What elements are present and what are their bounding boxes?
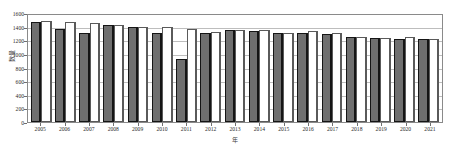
x-axis-tick-label: 2011 bbox=[174, 126, 198, 133]
x-axis-tick-label: 2014 bbox=[247, 126, 271, 133]
bar-dark bbox=[249, 31, 259, 122]
bar-light bbox=[114, 25, 124, 122]
bar-dark bbox=[322, 34, 332, 122]
y-axis-tick-label: 800 bbox=[0, 66, 24, 72]
y-axis-tick-label: 1400 bbox=[0, 25, 24, 31]
x-axis-title: 年 bbox=[27, 137, 443, 144]
bar-group bbox=[320, 15, 344, 122]
bar-light bbox=[332, 33, 342, 122]
bar-light bbox=[162, 27, 172, 122]
bar-group bbox=[247, 15, 271, 122]
bar-group bbox=[344, 15, 368, 122]
x-axis-tick: 2021 bbox=[418, 123, 442, 137]
bar-light bbox=[380, 38, 390, 122]
y-axis-tick-label: 400 bbox=[0, 93, 24, 99]
bar-group bbox=[417, 15, 441, 122]
bar-group-container bbox=[28, 15, 442, 122]
x-axis-tick-label: 2019 bbox=[369, 126, 393, 133]
x-axis-tick: 2012 bbox=[199, 123, 223, 137]
bar-light bbox=[90, 23, 100, 122]
bar-dark bbox=[418, 39, 428, 122]
y-axis-tick-label: 1200 bbox=[0, 38, 24, 44]
bar-dark bbox=[176, 59, 186, 122]
x-axis-tick-label: 2020 bbox=[393, 126, 417, 133]
x-axis-tick: 2008 bbox=[101, 123, 125, 137]
x-axis-tick: 2007 bbox=[77, 123, 101, 137]
bar-dark bbox=[346, 37, 356, 122]
x-axis-tick-label: 2017 bbox=[320, 126, 344, 133]
x-axis-tick: 2015 bbox=[272, 123, 296, 137]
x-axis-tick-label: 2013 bbox=[223, 126, 247, 133]
x-axis-tick-label: 2018 bbox=[345, 126, 369, 133]
x-axis-tick-label: 2015 bbox=[272, 126, 296, 133]
bar-group bbox=[368, 15, 392, 122]
bar-light bbox=[65, 22, 75, 122]
bar-group bbox=[174, 15, 198, 122]
y-axis-tick-label: 1600 bbox=[0, 11, 24, 17]
bar-chart: 数量 02004006008001000120014001600 2005200… bbox=[0, 0, 456, 151]
x-axis-tick: 2009 bbox=[125, 123, 149, 137]
x-axis-tick: 2005 bbox=[28, 123, 52, 137]
bar-group bbox=[271, 15, 295, 122]
bar-light bbox=[283, 33, 293, 122]
x-axis-tick: 2017 bbox=[320, 123, 344, 137]
bar-dark bbox=[152, 33, 162, 122]
x-axis-tick-label: 2010 bbox=[150, 126, 174, 133]
bar-group bbox=[53, 15, 77, 122]
bar-light bbox=[405, 37, 415, 122]
bar-light bbox=[429, 39, 439, 122]
y-axis-tick-label: 0 bbox=[0, 120, 24, 126]
bar-light bbox=[235, 30, 245, 122]
bar-light bbox=[138, 27, 148, 122]
bar-group bbox=[126, 15, 150, 122]
bar-dark bbox=[297, 33, 307, 122]
x-axis-tick: 2011 bbox=[174, 123, 198, 137]
x-axis-tick-group: 2005200620072008200920102011201220132014… bbox=[27, 123, 443, 137]
bar-group bbox=[393, 15, 417, 122]
bar-group bbox=[223, 15, 247, 122]
x-axis-tick: 2010 bbox=[150, 123, 174, 137]
x-axis-tick-label: 2006 bbox=[52, 126, 76, 133]
bar-light bbox=[187, 29, 197, 122]
bar-dark bbox=[31, 22, 41, 122]
bar-group bbox=[102, 15, 126, 122]
x-axis-tick: 2006 bbox=[52, 123, 76, 137]
x-axis-tick-label: 2009 bbox=[125, 126, 149, 133]
bar-dark bbox=[200, 33, 210, 122]
bar-light bbox=[211, 32, 221, 122]
bar-dark bbox=[394, 39, 404, 122]
x-axis-tick: 2016 bbox=[296, 123, 320, 137]
bar-group bbox=[296, 15, 320, 122]
bar-dark bbox=[225, 30, 235, 122]
bar-dark bbox=[128, 27, 138, 122]
x-axis-tick: 2020 bbox=[393, 123, 417, 137]
x-axis-tick: 2013 bbox=[223, 123, 247, 137]
y-axis-tick-label: 1000 bbox=[0, 52, 24, 58]
bar-dark bbox=[370, 38, 380, 122]
bar-group bbox=[150, 15, 174, 122]
x-axis-tick-label: 2007 bbox=[77, 126, 101, 133]
bar-light bbox=[41, 21, 51, 122]
bar-dark bbox=[273, 33, 283, 122]
x-axis-tick-label: 2016 bbox=[296, 126, 320, 133]
bar-group bbox=[29, 15, 53, 122]
x-axis-tick-label: 2008 bbox=[101, 126, 125, 133]
x-axis-tick: 2018 bbox=[345, 123, 369, 137]
x-axis-tick-label: 2005 bbox=[28, 126, 52, 133]
bar-dark bbox=[55, 29, 65, 122]
x-axis-tick-label: 2021 bbox=[418, 126, 442, 133]
bar-light bbox=[308, 31, 318, 122]
bar-group bbox=[199, 15, 223, 122]
bar-light bbox=[356, 37, 366, 122]
bar-group bbox=[77, 15, 101, 122]
x-axis-tick: 2019 bbox=[369, 123, 393, 137]
bar-dark bbox=[103, 25, 113, 122]
plot-area bbox=[27, 14, 443, 123]
bar-light bbox=[259, 30, 269, 122]
x-axis-tick-label: 2012 bbox=[199, 126, 223, 133]
y-axis-tick-label: 600 bbox=[0, 79, 24, 85]
y-axis-tick-label: 200 bbox=[0, 106, 24, 112]
bar-dark bbox=[79, 33, 89, 122]
x-axis-tick: 2014 bbox=[247, 123, 271, 137]
